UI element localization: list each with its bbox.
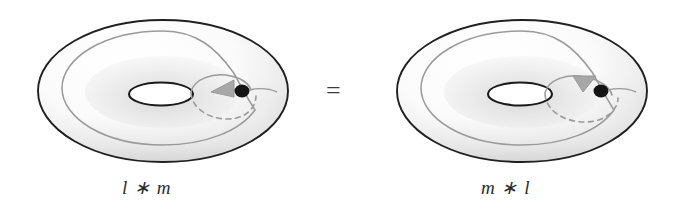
figure-canvas: = l ∗ m m ∗ l: [0, 0, 687, 208]
left-basepoint-dot: [235, 85, 250, 98]
left-torus-group: [38, 20, 288, 165]
equals-sign: =: [326, 78, 341, 104]
torus-diagram-svg: [0, 0, 687, 208]
left-torus-label: l ∗ m: [122, 176, 172, 199]
right-torus-label: m ∗ l: [481, 176, 531, 199]
right-basepoint-dot: [594, 85, 609, 98]
right-torus-group: [397, 20, 647, 165]
left-torus-hole: [129, 83, 193, 106]
right-torus-hole: [488, 83, 552, 106]
